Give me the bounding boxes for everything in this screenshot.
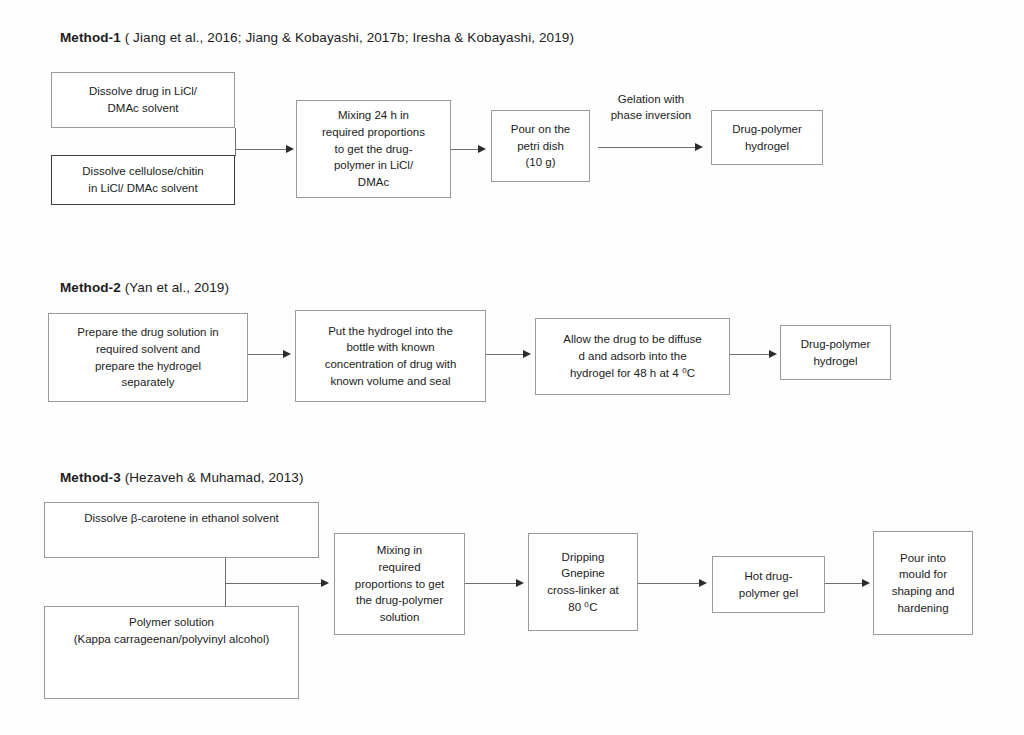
node-text: Drug-polymer hydrogel	[718, 121, 816, 154]
connector-arrow-line-m3	[225, 583, 324, 584]
arrowhead-m3-dripping-to-hotgel	[699, 579, 707, 587]
node-text: Prepare the drug solution in required so…	[55, 324, 241, 391]
method-2-label: Method-2	[60, 280, 121, 295]
method-1-title: Method-1 ( Jiang et al., 2016; Jiang & K…	[60, 30, 574, 45]
connector-m3-mixing-to-dripping	[465, 583, 519, 584]
arrowhead-m3-mixing-to-dripping	[516, 579, 524, 587]
node-pour-petri-dish: Pour on the petri dish (10 g)	[491, 110, 590, 182]
connector-arrow-line-m1	[235, 149, 289, 150]
node-drug-polymer-hydrogel-m2: Drug-polymer hydrogel	[780, 325, 891, 380]
flowchart-canvas: Method-1 ( Jiang et al., 2016; Jiang & K…	[0, 0, 1024, 735]
node-text: Drug-polymer hydrogel	[787, 336, 884, 369]
node-text: Put the hydrogel into the bottle with kn…	[302, 323, 479, 390]
connector-m3-dripping-to-hotgel	[638, 583, 702, 584]
node-hot-drug-polymer-gel: Hot drug- polymer gel	[712, 556, 825, 613]
edge-label-gelation-phase-inversion: Gelation with phase inversion	[592, 92, 710, 123]
arrowhead-m1-to-mixing	[286, 145, 294, 153]
method-3-reference: (Hezaveh & Muhamad, 2013)	[125, 470, 304, 485]
connector-m3-hotgel-to-mould	[825, 583, 865, 584]
arrowhead-pour-to-hydrogel	[695, 143, 703, 151]
node-text: Dissolve drug in LiCl/ DMAc solvent	[58, 83, 228, 116]
node-dissolve-drug-licl: Dissolve drug in LiCl/ DMAc solvent	[51, 72, 235, 128]
node-allow-drug-diffuse: Allow the drug to be diffuse d and adsor…	[535, 318, 730, 395]
arrowhead-m2-1to2	[283, 350, 291, 358]
arrowhead-mixing-to-pour	[478, 145, 486, 153]
node-text: Pour on the petri dish (10 g)	[498, 121, 583, 171]
method-2-reference: (Yan et al., 2019)	[125, 280, 229, 295]
node-text: Pour into mould for shaping and hardenin…	[880, 550, 966, 617]
arrowhead-m2-2to3	[523, 350, 531, 358]
method-3-title: Method-3 (Hezaveh & Muhamad, 2013)	[60, 470, 304, 485]
node-put-hydrogel-bottle: Put the hydrogel into the bottle with kn…	[295, 310, 486, 402]
method-1-reference: ( Jiang et al., 2016; Jiang & Kobayashi,…	[125, 30, 574, 45]
arrowhead-m3-hotgel-to-mould	[862, 579, 870, 587]
node-text: Dripping Gnepine cross-linker at 80 ⁰C	[535, 549, 631, 616]
method-1-label: Method-1	[60, 30, 121, 45]
node-text: Polymer solution (Kappa carrageenan/poly…	[51, 614, 292, 647]
node-mixing-required-proportions: Mixing in required proportions to get th…	[334, 533, 465, 635]
node-text: Hot drug- polymer gel	[719, 568, 818, 601]
node-text: Mixing in required proportions to get th…	[341, 542, 458, 625]
arrowhead-m3-to-mixing	[321, 579, 329, 587]
method-2-title: Method-2 (Yan et al., 2019)	[60, 280, 229, 295]
connector-m2-3to4	[730, 354, 772, 355]
arrowhead-m2-3to4	[769, 350, 777, 358]
connector-vertical-m1	[235, 128, 236, 156]
connector-mixing-to-pour	[451, 149, 481, 150]
node-text: Dissolve β-carotene in ethanol solvent	[51, 510, 312, 527]
method-3-label: Method-3	[60, 470, 121, 485]
connector-m2-2to3	[486, 354, 526, 355]
node-pour-into-mould: Pour into mould for shaping and hardenin…	[873, 531, 973, 635]
node-prepare-drug-solution: Prepare the drug solution in required so…	[48, 313, 248, 402]
node-mixing-24h: Mixing 24 h in required proportions to g…	[296, 100, 451, 198]
node-dripping-gnepine: Dripping Gnepine cross-linker at 80 ⁰C	[528, 533, 638, 631]
node-text: Dissolve cellulose/chitin in LiCl/ DMAc …	[58, 163, 228, 196]
connector-pour-to-hydrogel	[598, 147, 698, 148]
connector-m2-1to2	[248, 354, 286, 355]
node-drug-polymer-hydrogel-m1: Drug-polymer hydrogel	[711, 110, 823, 165]
node-dissolve-cellulose-chitin: Dissolve cellulose/chitin in LiCl/ DMAc …	[51, 155, 235, 205]
node-polymer-solution: Polymer solution (Kappa carrageenan/poly…	[44, 606, 299, 699]
node-dissolve-beta-carotene: Dissolve β-carotene in ethanol solvent	[44, 502, 319, 558]
node-text: Mixing 24 h in required proportions to g…	[303, 107, 444, 190]
node-text: Allow the drug to be diffuse d and adsor…	[542, 331, 723, 381]
